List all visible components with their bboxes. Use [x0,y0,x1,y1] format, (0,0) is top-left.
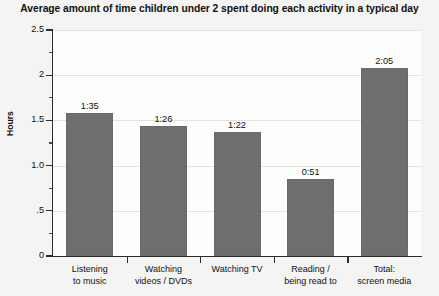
category-label: Reading / being read to [274,264,348,287]
x-tick [274,257,275,263]
chart-title: Average amount of time children under 2 … [0,2,439,15]
bar-value-label: 2:05 [354,56,414,66]
x-tick [200,257,201,263]
bar-value-label: 1:35 [60,101,120,111]
x-tick [127,257,128,263]
category-label: Listening to music [53,264,127,287]
gridline [53,30,421,31]
y-tick-label: 0 [4,251,44,260]
category-label: Total: screen media [347,264,421,287]
x-axis-line [52,256,422,257]
bar-chart: Average amount of time children under 2 … [0,0,439,296]
y-tick-label: .5 [4,206,44,215]
y-tick-label: 1.0 [4,161,44,170]
bar [287,179,334,256]
bar [66,113,113,256]
category-label: Watching videos / DVDs [127,264,201,287]
bar-value-label: 0:51 [281,167,341,177]
y-axis-line [52,30,53,257]
y-tick-label: 2 [4,70,44,79]
bar-value-label: 1:26 [133,114,193,124]
y-tick-label: 1.5 [4,115,44,124]
x-tick [347,257,348,263]
bar-value-label: 1:22 [207,120,267,130]
y-tick-label: 2.5 [4,25,44,34]
bar [361,68,408,256]
bar [214,132,261,256]
category-label: Watching TV [200,264,274,276]
bar [140,126,187,256]
